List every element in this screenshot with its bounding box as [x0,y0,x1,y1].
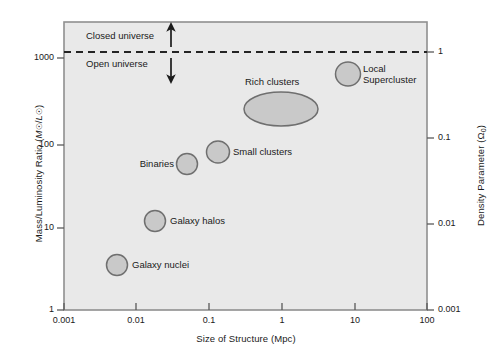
annotation-open-universe: Open universe [86,58,148,69]
y-tick-label-1: 1 [0,304,54,314]
y2-tick-label-1: 1 [438,46,488,56]
y-axis-title-slash: / [33,121,44,124]
marker-label-local-supercluster-line2: Supercluster [363,74,416,85]
data-marker-local-supercluster[interactable] [336,62,361,86]
chart-figure: 1000 100 10 1 1 0.1 0.01 0.001 0.001 0.0… [0,0,491,356]
y-tick-label-100: 100 [0,139,54,149]
y2-axis-title: Density Parameter (Ω0) [475,76,486,276]
data-marker-binaries[interactable] [177,154,198,175]
x-tick-label-10: 10 [325,315,385,325]
x-tick-label-100: 100 [397,315,457,325]
y-axis-title-prefix: Mass/Luminosity Ratio ( [33,138,44,242]
y2-axis-title-prefix: Density Parameter ( [475,140,486,226]
marker-label-galaxy-nuclei: Galaxy nuclei [132,259,189,270]
data-marker-rich-clusters[interactable] [244,92,318,126]
annotation-closed-universe: Closed universe [86,30,154,41]
y-axis-left-ticks [57,58,64,310]
y-axis-title-sun-symbol-2: ☉ [35,108,44,115]
y-axis-title-suffix: ) [33,105,44,108]
x-tick-label-0.01: 0.01 [106,315,166,325]
omega-symbol: Ω [475,132,486,139]
marker-label-binaries: Binaries [132,158,174,169]
data-marker-galaxy-halos[interactable] [145,211,166,232]
y-tick-label-10: 10 [0,222,54,232]
x-tick-label-0.001: 0.001 [34,315,94,325]
y-tick-label-1000: 1000 [0,52,54,62]
y-axis-title-mass-symbol: M [33,130,44,138]
marker-label-rich-clusters: Rich clusters [245,76,299,87]
y-axis-title-lum-symbol: L [33,115,44,120]
chart-canvas [0,0,491,356]
marker-label-local-supercluster-line1: Local [363,63,386,74]
y-axis-right-ticks [427,52,434,310]
marker-label-small-clusters: Small clusters [233,146,292,157]
x-tick-label-0.1: 0.1 [179,315,239,325]
y-axis-title: Mass/Luminosity Ratio (M☉/L☉) [33,74,44,274]
marker-label-galaxy-halos: Galaxy halos [170,215,225,226]
x-tick-label-1: 1 [252,315,312,325]
y2-tick-label-0.001: 0.001 [438,304,488,314]
data-marker-galaxy-nuclei[interactable] [107,255,128,276]
y2-axis-title-subscript: 0 [480,128,487,132]
marker-label-local-supercluster: LocalSupercluster [363,63,416,85]
data-marker-small-clusters[interactable] [207,141,230,163]
y-axis-title-sun-symbol-1: ☉ [35,123,44,130]
x-axis-title: Size of Structure (Mpc) [146,333,346,344]
